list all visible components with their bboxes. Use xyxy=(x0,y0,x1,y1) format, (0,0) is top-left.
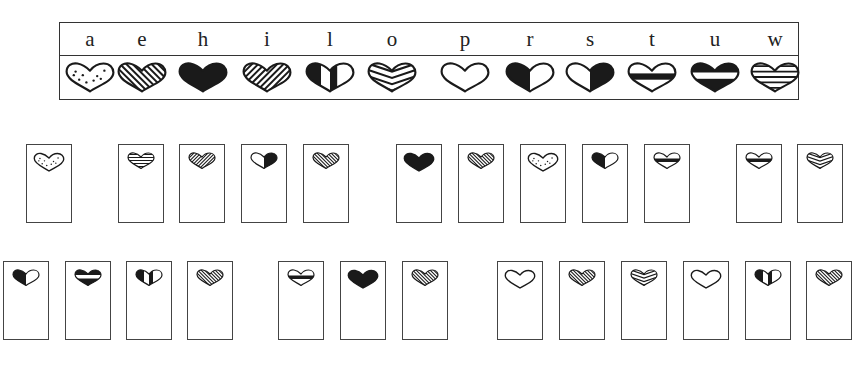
answer-box[interactable] xyxy=(559,261,605,340)
heart-diagonal-stripes-back-icon xyxy=(814,268,844,287)
heart-outline-icon xyxy=(689,268,723,290)
answer-box[interactable] xyxy=(458,144,504,223)
key-letter-s: s xyxy=(560,23,620,55)
answer-box[interactable] xyxy=(179,144,225,223)
key-letter-t: t xyxy=(622,23,682,55)
heart-outline-icon xyxy=(503,268,537,290)
answer-box[interactable] xyxy=(303,144,349,223)
answer-box[interactable] xyxy=(736,144,782,223)
key-heart-white-middle-band-icon xyxy=(685,60,745,96)
heart-vertical-bands-icon xyxy=(134,268,164,287)
key-heart-dotted-icon xyxy=(60,60,120,96)
key-heart-horizontal-stripes-icon xyxy=(745,60,805,96)
answer-box[interactable] xyxy=(683,261,729,340)
heart-vertical-bands-icon xyxy=(753,268,783,287)
answer-box[interactable] xyxy=(644,144,690,223)
answer-box[interactable] xyxy=(402,261,448,340)
key-heart-chevron-stripes-icon xyxy=(362,60,422,96)
key-letter-o: o xyxy=(362,23,422,55)
answer-box[interactable] xyxy=(621,261,667,340)
key-letter-w: w xyxy=(745,23,805,55)
heart-left-half-black-icon xyxy=(590,151,620,170)
key-letter-l: l xyxy=(300,23,360,55)
key-heart-outline-icon xyxy=(435,60,495,96)
answer-box[interactable] xyxy=(520,144,566,223)
answer-box[interactable] xyxy=(3,261,49,340)
heart-black-middle-band-icon xyxy=(286,268,316,287)
answer-box[interactable] xyxy=(26,144,72,223)
heart-solid-icon xyxy=(346,268,380,290)
answer-box[interactable] xyxy=(340,261,386,340)
heart-diagonal-stripes-back-icon xyxy=(195,268,225,287)
heart-horizontal-stripes-icon xyxy=(126,151,156,170)
answer-box[interactable] xyxy=(745,261,791,340)
heart-diagonal-stripes-back-icon xyxy=(466,151,496,170)
heart-solid-icon xyxy=(402,151,436,173)
key-heart-vertical-bands-icon xyxy=(300,60,360,96)
answer-box[interactable] xyxy=(582,144,628,223)
heart-diagonal-stripes-back-icon xyxy=(311,151,341,170)
key-heart-black-middle-band-icon xyxy=(622,60,682,96)
key-letter-u: u xyxy=(685,23,745,55)
key-letter-p: p xyxy=(435,23,495,55)
key-letter-i: i xyxy=(237,23,297,55)
heart-diagonal-stripes-forward-icon xyxy=(187,151,217,170)
key-hearts-row xyxy=(60,55,798,99)
heart-white-middle-band-icon xyxy=(73,268,103,287)
heart-chevron-stripes-icon xyxy=(805,151,835,170)
answer-box[interactable] xyxy=(65,261,111,340)
key-letters-row: aehiloprstuw xyxy=(60,23,798,56)
key-heart-diagonal-stripes-back-icon xyxy=(112,60,172,96)
key-letter-r: r xyxy=(500,23,560,55)
heart-right-half-black-icon xyxy=(249,151,279,170)
key-heart-diagonal-stripes-forward-icon xyxy=(237,60,297,96)
answer-box[interactable] xyxy=(126,261,172,340)
heart-dotted-icon xyxy=(526,151,560,173)
answer-box[interactable] xyxy=(497,261,543,340)
heart-chevron-stripes-icon xyxy=(629,268,659,287)
answer-box[interactable] xyxy=(187,261,233,340)
key-heart-right-half-black-icon xyxy=(560,60,620,96)
answer-box[interactable] xyxy=(278,261,324,340)
heart-left-half-black-icon xyxy=(11,268,41,287)
heart-diagonal-stripes-back-icon xyxy=(410,268,440,287)
cipher-key-table: aehiloprstuw xyxy=(59,22,799,100)
heart-dotted-icon xyxy=(32,151,66,173)
key-heart-left-half-black-icon xyxy=(500,60,560,96)
heart-diagonal-stripes-back-icon xyxy=(567,268,597,287)
answer-box[interactable] xyxy=(806,261,852,340)
heart-black-middle-band-icon xyxy=(744,151,774,170)
key-heart-solid-icon xyxy=(173,60,233,96)
answer-box[interactable] xyxy=(118,144,164,223)
answer-box[interactable] xyxy=(396,144,442,223)
answer-box[interactable] xyxy=(241,144,287,223)
heart-black-middle-band-icon xyxy=(652,151,682,170)
key-letter-a: a xyxy=(60,23,120,55)
key-letter-e: e xyxy=(112,23,172,55)
answer-box[interactable] xyxy=(797,144,843,223)
key-letter-h: h xyxy=(173,23,233,55)
